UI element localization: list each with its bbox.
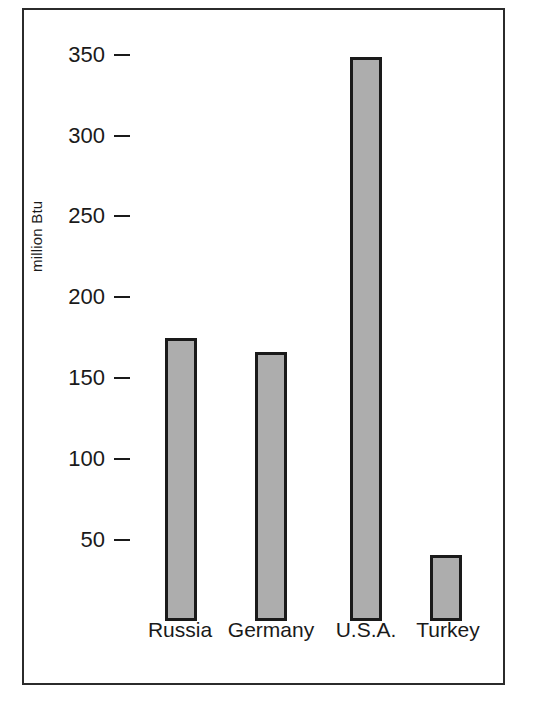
y-tick-mark-150 bbox=[114, 377, 130, 379]
y-tick-150: 150 bbox=[56, 365, 130, 391]
y-tick-mark-100 bbox=[114, 458, 130, 460]
bar-turkey[interactable] bbox=[430, 555, 462, 621]
y-tick-label-350: 350 bbox=[68, 42, 105, 68]
y-tick-mark-50 bbox=[114, 539, 130, 541]
y-axis-label: million Btu bbox=[28, 152, 45, 272]
y-tick-100: 100 bbox=[56, 446, 130, 472]
bar-germany[interactable] bbox=[255, 352, 287, 620]
y-tick-mark-250 bbox=[114, 215, 130, 217]
category-label-turkey: Turkey bbox=[398, 618, 498, 642]
y-tick-label-300: 300 bbox=[68, 123, 105, 149]
y-tick-250: 250 bbox=[56, 203, 130, 229]
y-tick-mark-350 bbox=[114, 54, 130, 56]
plot-area: million Btu 350 300 250 200 150 100 50 R… bbox=[0, 0, 535, 712]
category-label-russia: Russia bbox=[130, 618, 230, 642]
bar-usa[interactable] bbox=[350, 57, 382, 621]
y-tick-300: 300 bbox=[56, 123, 130, 149]
y-tick-label-50: 50 bbox=[81, 527, 105, 553]
category-label-germany: Germany bbox=[216, 618, 326, 642]
chart-figure: million Btu 350 300 250 200 150 100 50 R… bbox=[0, 0, 535, 712]
y-tick-200: 200 bbox=[56, 284, 130, 310]
y-tick-mark-200 bbox=[114, 296, 130, 298]
y-tick-mark-300 bbox=[114, 135, 130, 137]
y-tick-label-150: 150 bbox=[68, 365, 105, 391]
y-tick-350: 350 bbox=[56, 42, 130, 68]
y-tick-label-200: 200 bbox=[68, 284, 105, 310]
bar-russia[interactable] bbox=[165, 338, 197, 621]
y-tick-label-250: 250 bbox=[68, 203, 105, 229]
y-tick-50: 50 bbox=[56, 527, 130, 553]
y-tick-label-100: 100 bbox=[68, 446, 105, 472]
